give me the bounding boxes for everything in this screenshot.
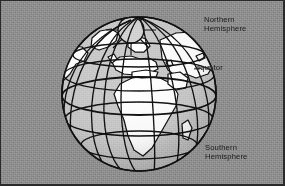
label-southern-hemisphere: Southern Hemisphere — [205, 143, 247, 161]
globe-figure: Northern Hemisphere equator Southern Hem… — [0, 0, 285, 186]
label-northern-hemisphere: Northern Hemisphere — [204, 15, 246, 33]
label-equator: equator — [196, 63, 223, 72]
